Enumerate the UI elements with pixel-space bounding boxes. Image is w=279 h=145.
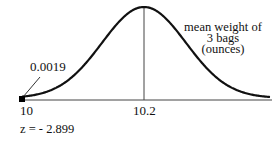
axis-title: mean weight of 3 bags (ounces) (178, 22, 268, 55)
z-score-label: z = - 2.899 (20, 122, 74, 136)
tail-area-label: 0.0019 (30, 60, 66, 74)
tick-label-10: 10 (20, 104, 33, 118)
axis-title-line3: (ounces) (178, 44, 268, 55)
tail-area-marker (19, 96, 25, 102)
tick-label-mean: 10.2 (133, 104, 156, 118)
